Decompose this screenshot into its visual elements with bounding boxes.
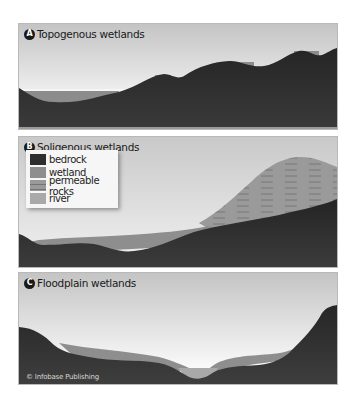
panel-badge: A <box>24 29 35 40</box>
permeable-rocks-swatch-icon <box>30 180 46 191</box>
panel-floodplain-wetlands: C Floodplain wetlands © Infobase Publish… <box>19 273 337 384</box>
panel-title: A Topogenous wetlands <box>24 28 144 40</box>
floodplain-cross-section <box>19 273 337 384</box>
panel-title: C Floodplain wetlands <box>24 277 136 289</box>
panel-title-text: Floodplain wetlands <box>37 277 136 289</box>
panel-title-text: Topogenous wetlands <box>37 28 144 40</box>
panel-soligenous-wetlands: B Soligenous wetlands bedrock wetland pe… <box>19 137 337 267</box>
river-swatch-icon <box>30 193 46 204</box>
wetland-swatch-icon <box>30 167 46 178</box>
panel-badge: C <box>24 278 35 289</box>
legend-label: river <box>49 193 70 204</box>
copyright-credit: © Infobase Publishing <box>26 373 99 381</box>
legend-item-bedrock: bedrock <box>30 153 114 166</box>
legend-label: bedrock <box>49 154 86 165</box>
legend-item-permeable-rocks: permeable rocks <box>30 179 114 192</box>
bedrock-swatch-icon <box>30 154 46 165</box>
legend: bedrock wetland permeable rocks river <box>26 150 118 208</box>
panel-topogenous-wetlands: A Topogenous wetlands <box>19 24 337 129</box>
